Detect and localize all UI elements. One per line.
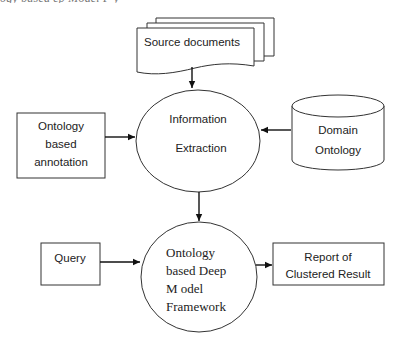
domain-ontology-label-line1: Domain bbox=[318, 124, 358, 136]
annotation-label-line2: based bbox=[45, 138, 76, 150]
ontology-annotation-node: Ontology based annotation bbox=[17, 113, 105, 178]
query-label: Query bbox=[54, 252, 86, 264]
extraction-ellipse bbox=[136, 90, 260, 192]
information-extraction-node: Information Extraction bbox=[136, 90, 260, 192]
framework-label-line1: Ontology bbox=[166, 245, 216, 260]
domain-ontology-node: Domain Ontology bbox=[292, 95, 384, 170]
report-label-line1: Report of bbox=[304, 251, 352, 263]
annotation-label-line3: annotation bbox=[34, 156, 88, 168]
framework-label-line2: based Deep bbox=[166, 263, 226, 278]
report-node: Report of Clustered Result bbox=[273, 243, 384, 285]
document-page-front bbox=[137, 28, 254, 74]
deep-model-framework-node: Ontology based Deep M odel Framework bbox=[141, 222, 257, 332]
annotation-label-line1: Ontology bbox=[38, 120, 84, 132]
report-label-line2: Clustered Result bbox=[285, 268, 371, 280]
extraction-label-line1: Information bbox=[169, 113, 227, 125]
query-node: Query bbox=[41, 243, 100, 285]
extraction-label-line2: Extraction bbox=[175, 142, 226, 154]
source-documents-node: Source documents bbox=[137, 18, 274, 74]
query-box bbox=[41, 243, 100, 285]
domain-ontology-label-line2: Ontology bbox=[315, 144, 361, 156]
framework-label-line3: M odel bbox=[166, 281, 204, 296]
framework-label-line4: Framework bbox=[166, 299, 226, 314]
source-documents-label: Source documents bbox=[144, 36, 240, 48]
cylinder-top bbox=[292, 95, 384, 117]
flow-diagram: Source documents Information Extraction … bbox=[0, 0, 401, 343]
